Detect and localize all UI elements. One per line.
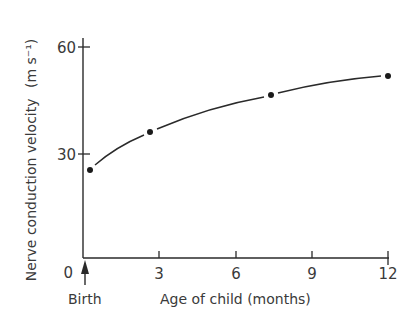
birth-arrow-icon [81,260,89,285]
data-point [385,73,391,79]
y-axis-title: Nerve conduction velocity (m s⁻¹) [23,39,39,282]
data-point [268,92,274,98]
x-tick-label-9: 9 [307,265,317,283]
x-tick-label-0: 0 [63,264,73,282]
data-point [147,129,153,135]
birth-label: Birth [68,291,102,307]
x-tick-label-12: 12 [378,265,397,283]
y-tick-label-30: 30 [57,146,76,164]
data-point [87,167,93,173]
data-curve [95,76,381,165]
svg-text:Nerve conduction velocity: Nerve conduction velocity (m s⁻¹) [23,39,39,282]
y-axis-unit: (m s⁻¹) [23,39,39,88]
x-axis-title: Age of child (months) [160,291,311,307]
y-axis-title-text: Nerve conduction velocity [23,99,39,282]
x-tick-label-3: 3 [154,265,164,283]
x-tick-label-6: 6 [231,265,241,283]
y-tick-label-60: 60 [57,39,76,57]
chart: 60 30 0 3 6 9 12 Birth Age of child (mon… [0,0,410,325]
